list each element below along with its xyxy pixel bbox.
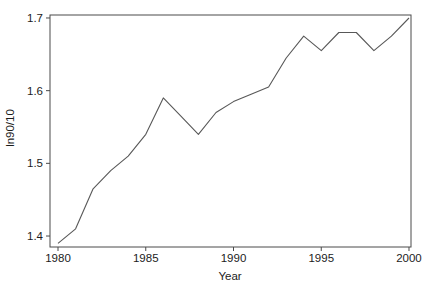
x-tick-label: 2000: [396, 252, 422, 264]
x-tick-label: 1995: [308, 252, 334, 264]
y-tick-label: 1.4: [27, 230, 44, 242]
y-tick-label: 1.6: [27, 85, 43, 97]
plot-frame: [50, 15, 411, 247]
x-tick-label: 1985: [133, 252, 159, 264]
chart-canvas: 198019851990199520001.41.51.61.7: [0, 0, 430, 289]
data-line: [58, 18, 409, 243]
x-tick-label: 1980: [45, 252, 71, 264]
x-tick-label: 1990: [221, 252, 247, 264]
y-tick-label: 1.7: [27, 12, 43, 24]
line-chart-figure: 198019851990199520001.41.51.61.7 ln90/10…: [0, 0, 430, 289]
x-axis-label: Year: [218, 271, 241, 283]
y-axis-label: ln90/10: [5, 109, 17, 147]
y-tick-label: 1.5: [27, 157, 43, 169]
